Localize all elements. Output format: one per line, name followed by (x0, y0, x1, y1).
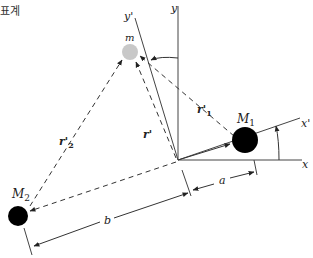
dim-a-tick-left (182, 170, 191, 196)
mass-M1 (232, 127, 258, 153)
dim-a-tick-right (254, 160, 257, 175)
label-a: a (219, 174, 226, 187)
vector-r2-prime (30, 60, 122, 206)
label-y: y (170, 2, 178, 15)
rotation-arc-x (276, 126, 279, 160)
label-y-prime: y' (123, 10, 133, 23)
y-prime-axis (135, 18, 178, 160)
label-r-prime: r' (143, 128, 152, 141)
label-x: x (302, 158, 309, 171)
dim-b-arrow-right (114, 193, 188, 218)
label-r2-prime: r'2 (59, 135, 74, 150)
coordinate-system-diagram: y y' x x' m M1 M2 r' r'1 r'2 a b (0, 0, 313, 258)
dim-a-arrow-right (230, 172, 254, 178)
vector-origin-to-M2 (30, 162, 176, 211)
vector-r-prime (136, 62, 176, 158)
label-M2: M2 (11, 187, 30, 203)
label-b: b (104, 214, 111, 227)
mass-m (122, 44, 138, 60)
label-M1: M1 (236, 112, 255, 128)
dim-b-arrow-left (34, 222, 100, 246)
dim-a-arrow-left (193, 184, 214, 190)
label-r1-prime: r'1 (197, 103, 212, 118)
label-m: m (125, 32, 134, 43)
label-x-prime: x' (301, 117, 310, 130)
dim-b-tick-left (24, 228, 32, 255)
vector-to-M1 (178, 144, 230, 160)
vector-r1-prime (140, 56, 234, 136)
rotation-arc-y (151, 57, 178, 60)
mass-M2 (8, 206, 28, 226)
